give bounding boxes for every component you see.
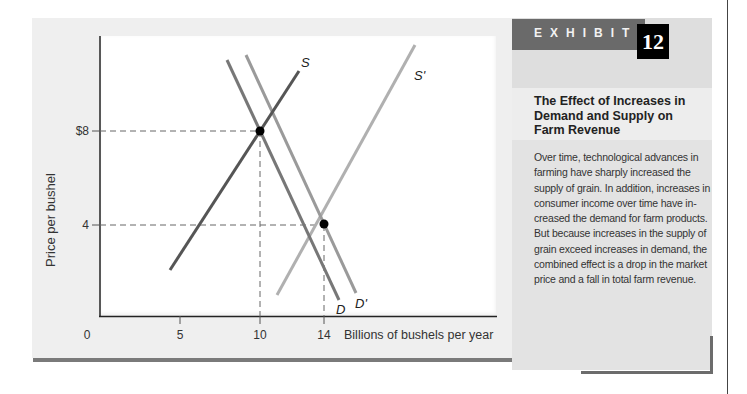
y-tick-label-4: 4 <box>82 218 89 232</box>
label-s: S <box>301 55 310 70</box>
page-margin-rule <box>727 0 728 394</box>
equilibrium-point-initial <box>256 127 265 136</box>
label-s-prime: S' <box>414 68 426 83</box>
exhibit-title: The Effect of Increases in Demand and Su… <box>534 94 704 138</box>
corner-accent-vertical <box>710 336 713 374</box>
exhibit-label: EXHIBIT <box>534 26 637 40</box>
corner-accent-horizontal <box>581 371 713 374</box>
equilibrium-point-new <box>320 220 329 229</box>
x-tick-label-10: 10 <box>253 328 267 342</box>
y-axis-label-container: Price per bushel <box>40 160 60 280</box>
x-tick-label-0: 0 <box>84 328 91 342</box>
guide-lines <box>100 131 324 316</box>
curve-d-prime <box>246 55 356 293</box>
x-tick-label-14: 14 <box>317 328 331 342</box>
exhibit-caption: Over time, technological advances in far… <box>534 150 712 288</box>
label-d: D <box>336 302 345 317</box>
label-d-prime: D' <box>355 296 367 311</box>
x-axis-label: Billions of bushels per year <box>344 328 493 342</box>
exhibit-number: 12 <box>637 24 669 59</box>
y-axis-label: Price per bushel <box>43 173 58 267</box>
x-tick-label-5: 5 <box>177 328 184 342</box>
y-tick-label-8: $8 <box>76 124 90 138</box>
